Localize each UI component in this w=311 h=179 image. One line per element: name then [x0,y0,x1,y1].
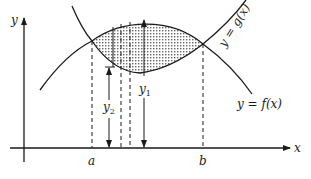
point-a-label: a [88,154,95,168]
curve-f-label: y = f(x) [236,97,282,111]
area-between-curves-diagram: y x a b y2 y1 y = f(x) y = g(x) [0,0,311,179]
y1-label: y1 [138,82,151,98]
point-b-label: b [199,154,207,168]
y2-label: y2 [102,100,115,116]
curve-g-label: y = g(x) [215,1,253,50]
y-axis-label: y [10,13,18,27]
shaded-region [92,25,203,73]
x-axis-label: x [294,141,301,155]
